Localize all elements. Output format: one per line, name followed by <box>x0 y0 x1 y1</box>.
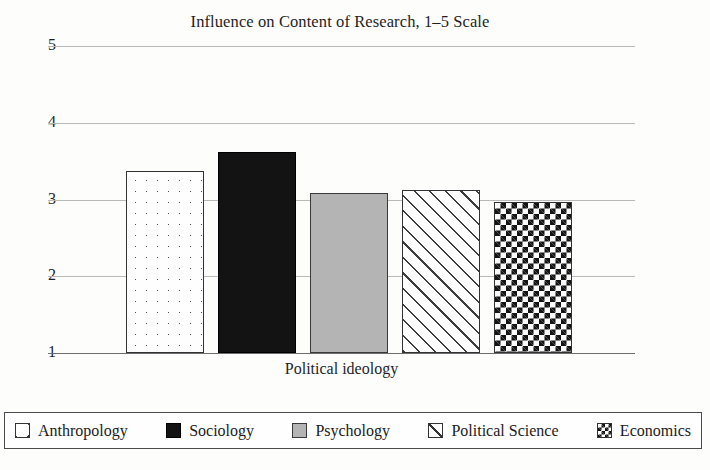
legend-item-economics[interactable]: Economics <box>597 422 691 440</box>
chart-title: Influence on Content of Research, 1–5 Sc… <box>0 12 680 32</box>
axis-baseline <box>48 353 635 354</box>
gridline <box>48 46 635 47</box>
legend-item-psychology[interactable]: Psychology <box>292 422 390 440</box>
legend-item-anthropology[interactable]: Anthropology <box>15 422 128 440</box>
bar-political-science[interactable] <box>402 190 480 353</box>
legend-item-label: Sociology <box>189 422 254 440</box>
bar-sociology[interactable] <box>218 152 296 353</box>
legend-item-label: Psychology <box>315 422 390 440</box>
bar-psychology[interactable] <box>310 193 388 353</box>
bar-economics[interactable] <box>494 202 572 353</box>
legend-swatch-diagonal-icon <box>428 423 443 438</box>
legend-item-label: Anthropology <box>38 422 128 440</box>
bar-chart: Influence on Content of Research, 1–5 Sc… <box>0 0 710 470</box>
legend-item-label: Political Science <box>451 422 558 440</box>
plot-area <box>48 46 635 353</box>
legend-item-sociology[interactable]: Sociology <box>166 422 254 440</box>
legend-swatch-solidgray-icon <box>292 423 307 438</box>
legend-swatch-solidblack-icon <box>166 423 181 438</box>
chart-legend: AnthropologySociologyPsychologyPolitical… <box>4 412 702 449</box>
legend-item-label: Economics <box>620 422 691 440</box>
gridline <box>48 123 635 124</box>
x-axis-title: Political ideology <box>48 360 635 378</box>
legend-swatch-checker-icon <box>597 423 612 438</box>
legend-item-political-science[interactable]: Political Science <box>428 422 558 440</box>
bar-anthropology[interactable] <box>126 171 204 353</box>
legend-swatch-dotted-icon <box>15 423 30 438</box>
